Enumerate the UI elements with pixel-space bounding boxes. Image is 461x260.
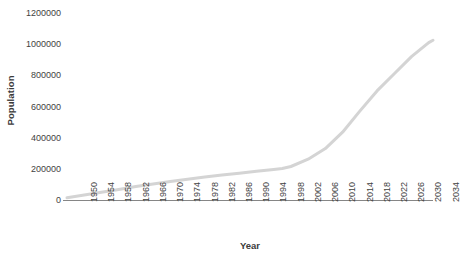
x-axis-tick-label: 2010 [347, 202, 357, 242]
x-axis-tick-label: 2018 [382, 202, 392, 242]
x-axis-tick-label: 2030 [433, 202, 443, 242]
y-axis-tick-label: 1000000 [26, 39, 61, 49]
y-axis-title-text: Population [5, 75, 16, 125]
x-axis-tick-label: 2022 [399, 202, 409, 242]
x-axis-tick-label: 2006 [330, 202, 340, 242]
x-axis-tick-label: 1978 [210, 202, 220, 242]
x-axis-tick-label: 1982 [227, 202, 237, 242]
x-axis-tick-label: 1958 [123, 202, 133, 242]
x-axis-tick-label: 1994 [278, 202, 288, 242]
y-axis-tick-label: 1200000 [26, 8, 61, 18]
x-axis-tick-label: 2034 [451, 202, 461, 242]
x-axis-title: Year [67, 240, 433, 251]
population-series-line [67, 40, 433, 197]
x-axis-tick-label: 2002 [313, 202, 323, 242]
x-axis-tick-label: 1998 [296, 202, 306, 242]
y-axis-tick-label: 800000 [31, 70, 61, 80]
x-axis-tick-label: 2026 [416, 202, 426, 242]
x-axis-tick-label: 1986 [244, 202, 254, 242]
y-axis-title: Population [0, 0, 20, 200]
series-canvas [67, 13, 433, 200]
x-axis-tick-label: 2014 [365, 202, 375, 242]
x-axis-tick-label: 1962 [141, 202, 151, 242]
x-axis-tick-labels: 1950195419581962196619701974197819821986… [0, 202, 441, 242]
x-axis-tick-label: 1966 [158, 202, 168, 242]
y-axis-tick-label: 400000 [31, 133, 61, 143]
y-axis-tick-label: 200000 [31, 164, 61, 174]
x-axis-tick-label: 1970 [175, 202, 185, 242]
x-axis-tick-label: 1974 [192, 202, 202, 242]
y-axis-tick-label: 600000 [31, 102, 61, 112]
plot-area [67, 13, 433, 200]
x-axis-tick-label: 1950 [89, 202, 99, 242]
x-axis-tick-label: 1954 [106, 202, 116, 242]
x-axis-tick-label: 1990 [261, 202, 271, 242]
